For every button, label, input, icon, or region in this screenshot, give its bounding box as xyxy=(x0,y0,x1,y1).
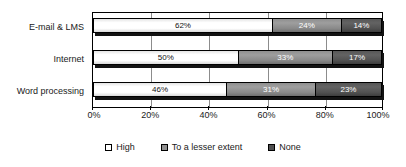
bar-value-label: 17% xyxy=(349,54,365,62)
legend-item-none: None xyxy=(268,142,301,152)
category-label-1: Internet xyxy=(0,54,84,64)
bar-value-label: 31% xyxy=(263,86,279,94)
bar-segment-lesser: 33% xyxy=(238,51,333,64)
stacked-bar-chart: E-mail & LMS Internet Word processing 62… xyxy=(0,0,406,167)
bar-value-label: 50% xyxy=(158,54,174,62)
bar-segment-none: 23% xyxy=(315,83,381,96)
category-label-2: Word processing xyxy=(0,86,84,96)
legend-label: To a lesser extent xyxy=(172,142,243,152)
x-tick-label-5: 100% xyxy=(366,110,389,120)
bar-value-label: 62% xyxy=(175,22,191,30)
x-tick-label-1: 20% xyxy=(141,110,159,120)
bar-segment-high: 46% xyxy=(94,83,226,96)
bar-value-label: 33% xyxy=(277,54,293,62)
legend: High To a lesser extent None xyxy=(0,142,406,152)
legend-swatch-icon xyxy=(268,144,275,151)
bar-segment-high: 50% xyxy=(94,51,238,64)
stacked-bar-1: 50% 33% 17% xyxy=(93,50,382,65)
bar-row: 62% 24% 14% xyxy=(93,18,382,34)
x-tick-label-0: 0% xyxy=(87,110,100,120)
x-tick-label-3: 60% xyxy=(258,110,276,120)
bar-value-label: 46% xyxy=(152,86,168,94)
bar-segment-lesser: 24% xyxy=(272,19,341,32)
x-tick-label-4: 80% xyxy=(316,110,334,120)
bar-row: 46% 31% 23% xyxy=(93,82,382,98)
category-axis: E-mail & LMS Internet Word processing xyxy=(0,12,88,108)
stacked-bar-0: 62% 24% 14% xyxy=(93,18,382,33)
bar-value-label: 14% xyxy=(353,22,369,30)
x-tick-label-2: 40% xyxy=(199,110,217,120)
bar-segment-none: 17% xyxy=(332,51,381,64)
category-label-0: E-mail & LMS xyxy=(0,22,84,32)
legend-swatch-icon xyxy=(105,144,112,151)
legend-label: High xyxy=(116,142,135,152)
value-axis: 0% 20% 40% 60% 80% 100% xyxy=(92,110,383,124)
legend-swatch-icon xyxy=(161,144,168,151)
stacked-bar-2: 46% 31% 23% xyxy=(93,82,382,97)
bar-segment-none: 14% xyxy=(341,19,381,32)
legend-item-high: High xyxy=(105,142,135,152)
legend-label: None xyxy=(279,142,301,152)
bar-segment-high: 62% xyxy=(94,19,272,32)
legend-item-lesser-extent: To a lesser extent xyxy=(161,142,243,152)
bar-segment-lesser: 31% xyxy=(226,83,315,96)
bar-value-label: 24% xyxy=(299,22,315,30)
bar-value-label: 23% xyxy=(340,86,356,94)
plot-area: 62% 24% 14% 50% 33% 17% 46% 31% 23% xyxy=(92,12,383,108)
bar-row: 50% 33% 17% xyxy=(93,50,382,66)
